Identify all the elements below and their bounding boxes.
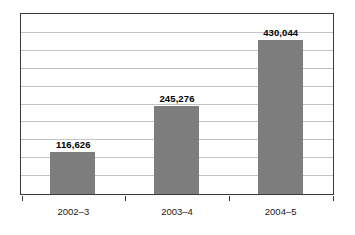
category-label: 2004–5: [265, 206, 297, 217]
bar-value-label: 245,276: [159, 93, 194, 104]
bar: [154, 106, 199, 194]
axis-tick: [22, 196, 23, 201]
bars-layer: [21, 14, 333, 194]
category-label: 2003–4: [161, 206, 193, 217]
axis-tick: [125, 196, 126, 201]
plot-area: [20, 13, 334, 195]
bar: [258, 40, 303, 194]
bar: [50, 152, 95, 194]
bar-chart: 116,626245,276430,044 2002–32003–42004–5: [0, 0, 355, 235]
bar-value-label: 116,626: [56, 139, 91, 150]
axis-tick: [333, 196, 334, 201]
bar-value-label: 430,044: [263, 27, 298, 38]
axis-tick: [229, 196, 230, 201]
category-label: 2002–3: [57, 206, 89, 217]
